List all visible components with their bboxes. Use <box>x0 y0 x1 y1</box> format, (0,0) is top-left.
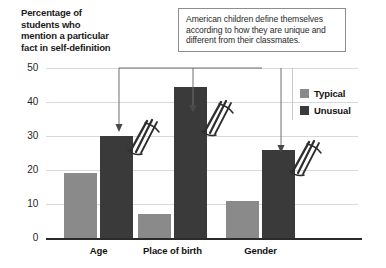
y-axis-title-line-2: students who <box>21 19 80 30</box>
y-tick-label-10: 10 <box>8 198 38 209</box>
y-tick-label-50: 50 <box>8 62 38 73</box>
y-axis-title-line-1: Percentage of <box>21 7 82 18</box>
y-tick-label-0: 0 <box>8 232 38 243</box>
legend-swatch-unusual-icon <box>300 106 309 115</box>
y-axis-title-line-3: mention a particular <box>21 30 109 41</box>
bar-typical-age <box>64 173 97 238</box>
bar-typical-place-of-birth <box>138 214 171 238</box>
legend-item-unusual[interactable]: Unusual <box>300 103 351 117</box>
bar-typical-gender <box>226 201 259 238</box>
legend-label-unusual: Unusual <box>314 105 351 116</box>
callout-annotation: American children define themselves acco… <box>178 8 346 52</box>
x-axis-line <box>46 238 362 240</box>
chart-canvas: Percentage of students who mention a par… <box>0 0 386 268</box>
legend-item-typical[interactable]: Typical <box>300 86 351 100</box>
y-tick-label-40: 40 <box>8 96 38 107</box>
y-axis-title: Percentage of students who mention a par… <box>21 7 161 53</box>
y-tick-label-20: 20 <box>8 164 38 175</box>
x-category-label-gender: Gender <box>204 245 317 256</box>
bar-unusual-gender <box>262 150 295 238</box>
bar-unusual-age <box>100 136 133 238</box>
legend-label-typical: Typical <box>314 88 345 99</box>
legend: Typical Unusual <box>300 86 351 120</box>
bar-unusual-place-of-birth <box>174 87 207 238</box>
legend-divider <box>292 68 293 120</box>
y-tick-label-30: 30 <box>8 130 38 141</box>
gridline-50 <box>46 68 358 69</box>
y-axis-title-line-4: fact in self-definition <box>21 42 110 53</box>
legend-swatch-typical-icon <box>300 89 309 98</box>
